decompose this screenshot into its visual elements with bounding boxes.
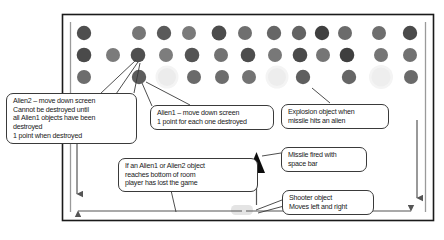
- alien-object: [296, 70, 310, 84]
- alien-object: [267, 26, 281, 40]
- alien-object: [342, 70, 356, 84]
- alien-object: [241, 48, 256, 63]
- alien-object: [338, 26, 352, 40]
- alien-object: [106, 48, 120, 62]
- alien-object: [132, 70, 146, 84]
- alien-object: [157, 26, 171, 40]
- alien-object: [316, 48, 330, 62]
- alien-object: [212, 26, 227, 41]
- callout-bottom-line-2: reaches bottom of room: [125, 171, 252, 180]
- callout-shooter-line-2: Moves left and right: [289, 203, 368, 212]
- alien-object: [214, 48, 228, 62]
- alien-object: [374, 48, 388, 62]
- alien-object: [403, 48, 417, 62]
- alien-object: [315, 26, 329, 40]
- leader-shooter-a: [256, 200, 282, 210]
- alien-object: [77, 70, 91, 84]
- alien-object: [372, 26, 386, 40]
- alien-grid: [77, 26, 418, 85]
- alien-object: [159, 48, 173, 62]
- alien-object: [404, 70, 418, 84]
- leader-shooter-b: [258, 206, 284, 213]
- alien-object: [182, 26, 196, 40]
- alien-object: [77, 26, 91, 40]
- alien-object: [292, 26, 306, 40]
- callout-explosion-line-1: Explosion object when: [288, 108, 383, 117]
- alien-object: [77, 48, 92, 63]
- alien-object: [185, 48, 200, 63]
- callout-missile-line-2: space bar: [288, 160, 361, 169]
- alien-object: [238, 26, 252, 40]
- alien-object: [268, 48, 282, 62]
- callout-missile: Missile fired with space bar: [281, 147, 367, 172]
- leader-explosion: [312, 88, 330, 103]
- callout-alien2: Alien2 – move down screen Cannot be dest…: [6, 93, 137, 144]
- alien-object: [131, 48, 146, 63]
- explosion-object: [158, 68, 176, 86]
- alien-object: [403, 26, 417, 40]
- leader-alien2-b: [100, 60, 136, 94]
- diagram-canvas: Alien2 – move down screen Cannot be dest…: [0, 0, 444, 240]
- alien-object: [293, 48, 308, 63]
- callout-missile-line-1: Missile fired with: [288, 151, 361, 160]
- leader-alien1-a: [142, 83, 152, 106]
- callout-explosion-line-2: missile hits an alien: [288, 117, 383, 126]
- callout-shooter: Shooter object Moves left and right: [282, 190, 374, 215]
- alien-object: [340, 48, 355, 63]
- leader-missile: [262, 153, 281, 156]
- callout-alien1: Alien1 – move down screen 1 point for ea…: [150, 105, 274, 130]
- shooter-object: [231, 205, 253, 215]
- alien-object: [242, 70, 256, 84]
- callout-alien2-line-5: 1 point when destroyed: [13, 132, 131, 141]
- callout-bottom-of-room: If an Alien1 or Alien2 object reaches bo…: [118, 158, 258, 192]
- callout-bottom-line-1: If an Alien1 or Alien2 object: [125, 162, 252, 171]
- callout-alien2-line-1: Alien2 – move down screen: [13, 97, 131, 106]
- explosion-object: [372, 68, 391, 87]
- alien-object: [187, 70, 201, 84]
- alien-object: [132, 26, 146, 40]
- callout-explosion: Explosion object when missile hits an al…: [281, 104, 389, 129]
- explosion-object: [268, 68, 286, 86]
- callout-alien2-line-4: destroyed: [13, 123, 131, 132]
- alien-object: [215, 70, 229, 84]
- callout-shooter-line-1: Shooter object: [289, 194, 368, 203]
- callout-bottom-line-3: player has lost the game: [125, 179, 252, 188]
- callout-alien2-line-3: all Alien1 objects have been: [13, 114, 131, 123]
- callout-alien2-line-2: Cannot be destroyed until: [13, 106, 131, 115]
- callout-alien1-line-2: 1 point for each one destroyed: [157, 118, 268, 127]
- callout-alien1-line-1: Alien1 – move down screen: [157, 109, 268, 118]
